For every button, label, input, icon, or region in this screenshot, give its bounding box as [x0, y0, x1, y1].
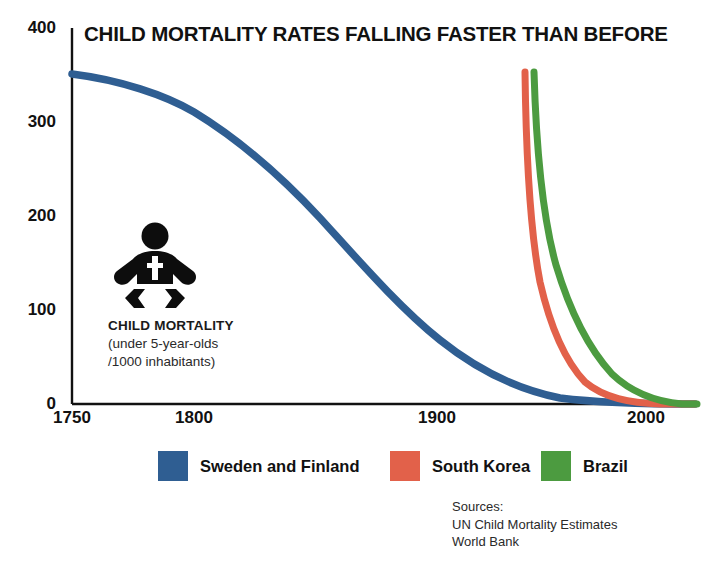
legend-label-sweden-and-finland: Sweden and Finland	[200, 457, 360, 476]
y-tick-200: 200	[0, 206, 56, 226]
baby-icon	[112, 222, 198, 312]
annotation-subtitle-line1: (under 5-year-olds	[108, 335, 298, 353]
x-tick-1900: 1900	[397, 408, 477, 428]
sources-block: Sources: UN Child Mortality Estimates Wo…	[452, 498, 617, 551]
legend-swatch-sweden-and-finland	[158, 451, 188, 481]
y-tick-100: 100	[0, 300, 56, 320]
chart-legend: Sweden and Finland South Korea Brazil	[0, 449, 718, 487]
legend-item-south-korea[interactable]: South Korea	[390, 449, 530, 483]
sources-heading: Sources:	[452, 498, 617, 516]
x-tick-2000: 2000	[606, 408, 686, 428]
y-tick-400: 400	[0, 18, 56, 38]
legend-swatch-south-korea	[390, 451, 420, 481]
legend-item-brazil[interactable]: Brazil	[541, 449, 628, 483]
legend-swatch-brazil	[541, 451, 571, 481]
y-tick-300: 300	[0, 112, 56, 132]
sources-line-world-bank: World Bank	[452, 533, 617, 551]
legend-label-brazil: Brazil	[583, 457, 628, 476]
x-tick-1800: 1800	[154, 408, 234, 428]
legend-label-south-korea: South Korea	[432, 457, 530, 476]
legend-item-sweden-and-finland[interactable]: Sweden and Finland	[158, 449, 360, 483]
series-line-brazil	[534, 72, 697, 404]
sources-line-un: UN Child Mortality Estimates	[452, 516, 617, 534]
chart-figure: CHILD MORTALITY RATES FALLING FASTER THA…	[0, 0, 718, 571]
annotation-title: CHILD MORTALITY	[108, 318, 298, 333]
x-tick-1750: 1750	[32, 408, 112, 428]
annotation-subtitle-line2: /1000 inhabitants)	[108, 353, 298, 371]
child-mortality-annotation: CHILD MORTALITY (under 5-year-olds /1000…	[108, 222, 298, 370]
